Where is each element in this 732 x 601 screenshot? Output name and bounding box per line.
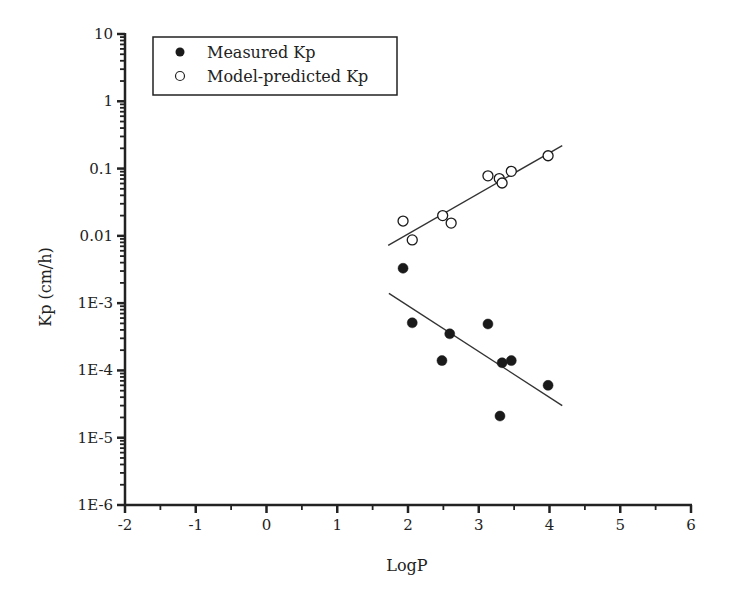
y-axis-title: Kp (cm/h) — [36, 247, 55, 327]
x-tick-label: 6 — [686, 516, 696, 534]
y-tick-label: 1E-4 — [78, 361, 113, 379]
legend-label-model: Model-predicted Kp — [207, 67, 368, 86]
x-axis-ticks: -2-10123456 — [118, 505, 696, 534]
measured-point — [506, 356, 516, 366]
measured-point — [543, 380, 553, 390]
y-tick-label: 10 — [94, 25, 113, 43]
y-tick-label: 1E-3 — [78, 294, 113, 312]
model-point — [398, 216, 408, 226]
model-point — [407, 235, 417, 245]
x-tick-label: 4 — [545, 516, 555, 534]
y-tick-label: 1E-5 — [78, 429, 113, 447]
legend-label-measured: Measured Kp — [207, 43, 316, 62]
measured-point — [497, 358, 507, 368]
model-point — [506, 166, 516, 176]
trendline — [389, 293, 562, 405]
trendline — [388, 146, 562, 246]
measured-point — [483, 319, 493, 329]
y-axis-ticks: 1010.10.011E-31E-41E-51E-6 — [78, 25, 125, 514]
measured-point — [445, 329, 455, 339]
x-tick-label: 3 — [474, 516, 484, 534]
measured-point — [495, 411, 505, 421]
measured-point — [437, 356, 447, 366]
y-tick-label: 1E-6 — [78, 496, 113, 514]
model-point — [446, 218, 456, 228]
y-tick-label: 1 — [103, 92, 113, 110]
legend: Measured Kp Model-predicted Kp — [153, 37, 397, 95]
data-points — [398, 151, 553, 421]
x-axis-title: LogP — [386, 556, 428, 575]
measured-point — [407, 318, 417, 328]
trendlines — [388, 146, 562, 406]
x-tick-label: 0 — [262, 516, 272, 534]
x-tick-label: 5 — [615, 516, 625, 534]
model-point — [483, 171, 493, 181]
model-point — [497, 178, 507, 188]
open-circle-icon — [176, 72, 185, 81]
filled-circle-icon — [176, 48, 185, 57]
measured-point — [398, 263, 408, 273]
x-tick-label: 1 — [332, 516, 342, 534]
x-tick-label: -1 — [188, 516, 203, 534]
model-point — [438, 211, 448, 221]
scatter-chart: 1010.10.011E-31E-41E-51E-6 -2-10123456 L… — [0, 0, 732, 601]
x-tick-label: -2 — [118, 516, 133, 534]
y-tick-label: 0.01 — [80, 227, 113, 245]
model-point — [543, 151, 553, 161]
y-tick-label: 0.1 — [89, 160, 113, 178]
x-tick-label: 2 — [403, 516, 413, 534]
